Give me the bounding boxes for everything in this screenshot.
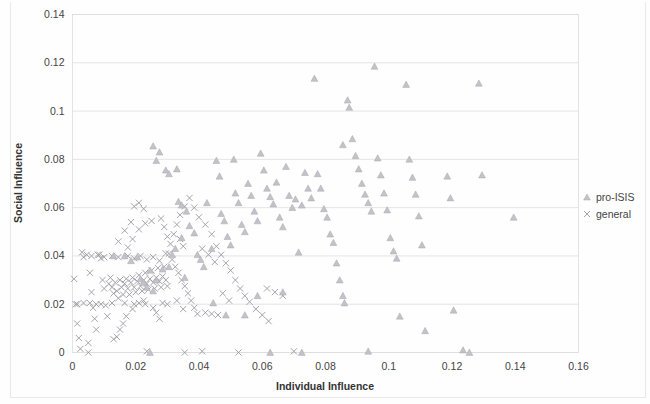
- x-axis-title: Individual Influence: [276, 380, 374, 392]
- data-point-general: [92, 316, 98, 322]
- scatter-chart-figure: 00.020.040.060.080.10.120.140.16 00.020.…: [0, 0, 650, 404]
- data-point-pro-isis: [245, 180, 252, 186]
- data-point-pro-isis: [390, 248, 397, 254]
- data-point-pro-isis: [387, 234, 394, 240]
- data-point-pro-isis: [283, 163, 290, 169]
- data-point-general: [156, 316, 162, 322]
- data-point-pro-isis: [270, 201, 277, 207]
- data-point-general: [259, 312, 265, 318]
- data-point-general: [199, 246, 205, 252]
- data-point-general: [104, 313, 110, 319]
- x-tick-label: 0.06: [252, 360, 273, 372]
- data-point-general: [237, 285, 243, 291]
- data-point-pro-isis: [352, 152, 359, 158]
- data-point-pro-isis: [460, 347, 467, 353]
- data-point-pro-isis: [218, 210, 225, 216]
- data-point-general: [156, 258, 162, 264]
- data-point-pro-isis: [279, 224, 286, 230]
- data-point-pro-isis: [346, 104, 353, 110]
- data-point-general: [174, 297, 180, 303]
- legend-triangle-icon: [584, 194, 591, 200]
- data-point-pro-isis: [221, 218, 228, 224]
- data-point-general: [163, 277, 169, 283]
- data-point-pro-isis: [128, 257, 135, 263]
- data-point-general: [122, 227, 128, 233]
- data-point-general: [117, 326, 123, 332]
- data-point-pro-isis: [241, 312, 248, 318]
- data-point-pro-isis: [227, 242, 234, 248]
- y-axis-title: Social Influence: [12, 143, 24, 223]
- data-point-pro-isis: [349, 135, 356, 141]
- data-point-general: [99, 277, 105, 283]
- data-point-pro-isis: [273, 179, 280, 185]
- data-point-general: [265, 318, 271, 324]
- data-point-pro-isis: [381, 190, 388, 196]
- data-point-pro-isis: [267, 193, 274, 199]
- data-point-general: [142, 220, 148, 226]
- data-point-general: [182, 283, 188, 289]
- data-point-pro-isis: [257, 150, 264, 156]
- data-point-general: [129, 275, 135, 281]
- data-point-general: [180, 306, 186, 312]
- data-point-general: [133, 289, 139, 295]
- data-point-pro-isis: [365, 348, 372, 354]
- data-point-pro-isis: [279, 289, 286, 295]
- legend-x-icon: [584, 211, 590, 217]
- data-point-pro-isis: [355, 166, 362, 172]
- data-point-pro-isis: [412, 191, 419, 197]
- data-point-pro-isis: [324, 214, 331, 220]
- data-point-pro-isis: [317, 185, 324, 191]
- data-point-general: [150, 254, 156, 260]
- data-point-pro-isis: [251, 208, 258, 214]
- x-axis-tick-labels: 00.020.040.060.080.10.120.140.16: [70, 360, 589, 372]
- data-point-pro-isis: [191, 230, 198, 236]
- data-point-general: [186, 195, 192, 201]
- data-point-general: [171, 231, 177, 237]
- data-point-general: [291, 348, 297, 354]
- data-point-pro-isis: [341, 300, 348, 306]
- data-point-pro-isis: [260, 167, 267, 173]
- data-point-pro-isis: [213, 157, 220, 163]
- data-point-general: [205, 252, 211, 258]
- data-point-general: [80, 254, 86, 260]
- data-point-general: [242, 293, 248, 299]
- data-point-pro-isis: [298, 202, 305, 208]
- scatter-plot-svg: 00.020.040.060.080.10.120.140.16 00.020.…: [0, 0, 650, 404]
- data-point-general: [80, 300, 86, 306]
- data-point-general: [164, 234, 170, 240]
- data-point-general: [202, 310, 208, 316]
- data-point-general: [161, 224, 167, 230]
- x-tick-label: 0.08: [315, 360, 336, 372]
- data-point-pro-isis: [204, 199, 211, 205]
- data-point-general: [172, 264, 178, 270]
- data-point-pro-isis: [447, 195, 454, 201]
- data-point-pro-isis: [150, 143, 157, 149]
- data-point-general: [232, 277, 238, 283]
- data-point-pro-isis: [181, 274, 188, 280]
- data-point-pro-isis: [403, 81, 410, 87]
- data-point-pro-isis: [254, 292, 261, 298]
- data-point-pro-isis: [339, 141, 346, 147]
- y-tick-label: 0: [59, 346, 65, 358]
- data-point-general: [129, 236, 135, 242]
- data-point-pro-isis: [150, 288, 157, 294]
- data-point-general: [77, 346, 83, 352]
- data-point-general: [196, 214, 202, 220]
- data-point-general: [194, 311, 200, 317]
- data-point-general: [76, 335, 82, 341]
- y-tick-label: 0.02: [44, 298, 65, 310]
- data-point-general: [202, 221, 208, 227]
- data-point-pro-isis: [368, 208, 375, 214]
- data-point-pro-isis: [339, 292, 346, 298]
- data-point-general: [111, 336, 117, 342]
- data-point-general: [120, 320, 126, 326]
- data-point-general: [148, 218, 154, 224]
- data-point-pro-isis: [194, 251, 201, 257]
- data-point-general: [87, 270, 93, 276]
- data-point-pro-isis: [330, 239, 337, 245]
- plot-area-border: [73, 15, 579, 353]
- data-point-pro-isis: [344, 97, 351, 103]
- data-point-pro-isis: [419, 242, 426, 248]
- x-tick-label: 0.04: [189, 360, 210, 372]
- gridlines-group: [73, 15, 579, 353]
